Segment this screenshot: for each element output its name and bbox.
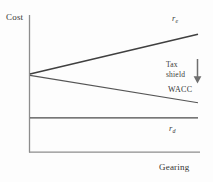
tax-shield-arrow-icon xyxy=(194,59,202,84)
y-axis-label: Cost xyxy=(6,13,23,22)
series-label-equity-subscript: e xyxy=(176,18,179,24)
cost-of-capital-chart: Cost Gearing re WACC rd Tax shield xyxy=(0,0,213,182)
series-label-cost-of-debt: rd xyxy=(169,124,176,133)
tax-shield-annotation: Tax shield xyxy=(166,60,185,79)
series-label-cost-of-equity: re xyxy=(172,14,178,23)
series-label-equity-base: r xyxy=(172,13,176,23)
series-label-wacc: WACC xyxy=(168,86,192,94)
series-label-debt-base: r xyxy=(169,123,173,133)
series-label-debt-subscript: d xyxy=(173,128,176,134)
x-axis-label: Gearing xyxy=(159,163,189,172)
tax-shield-line-1: Tax xyxy=(166,60,185,70)
tax-shield-line-2: shield xyxy=(166,70,185,80)
